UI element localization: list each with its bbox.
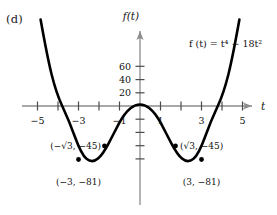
- y-tick-label-40: 40: [119, 74, 131, 85]
- y-axis-label: f(t): [122, 10, 139, 22]
- graph-svg: f(t) t f (t) = t⁴ − 18t² −5 −3 −1 1 3 5 …: [0, 0, 277, 215]
- point-label-left-saddle: (−√3, −45): [50, 141, 101, 151]
- marker-left-min: [76, 157, 81, 162]
- x-tick-label-5: 5: [239, 115, 245, 126]
- marker-left-saddle: [102, 144, 107, 149]
- x-tick-label--3: −3: [71, 115, 85, 126]
- y-tick-label-20: 20: [119, 87, 131, 98]
- x-tick-label--1: −1: [112, 115, 126, 126]
- point-label-right-min: (3, −81): [183, 177, 220, 187]
- x-axis-label: t: [261, 100, 266, 112]
- equation-annotation: f (t) = t⁴ − 18t²: [189, 38, 262, 49]
- part-label: (d): [6, 12, 23, 26]
- x-tick-label--5: −5: [30, 115, 44, 126]
- y-tick-label-60: 60: [119, 61, 131, 72]
- x-tick-label-1: 1: [157, 115, 163, 126]
- x-tick-label-3: 3: [198, 115, 204, 126]
- marker-right-min: [199, 157, 204, 162]
- figure-container: (d): [0, 0, 277, 215]
- y-tick-labels-group: 60 40 20: [119, 61, 131, 99]
- point-label-right-saddle: (√3, −45): [180, 141, 223, 151]
- point-label-left-min: (−3, −81): [56, 177, 101, 187]
- marker-right-saddle: [173, 144, 178, 149]
